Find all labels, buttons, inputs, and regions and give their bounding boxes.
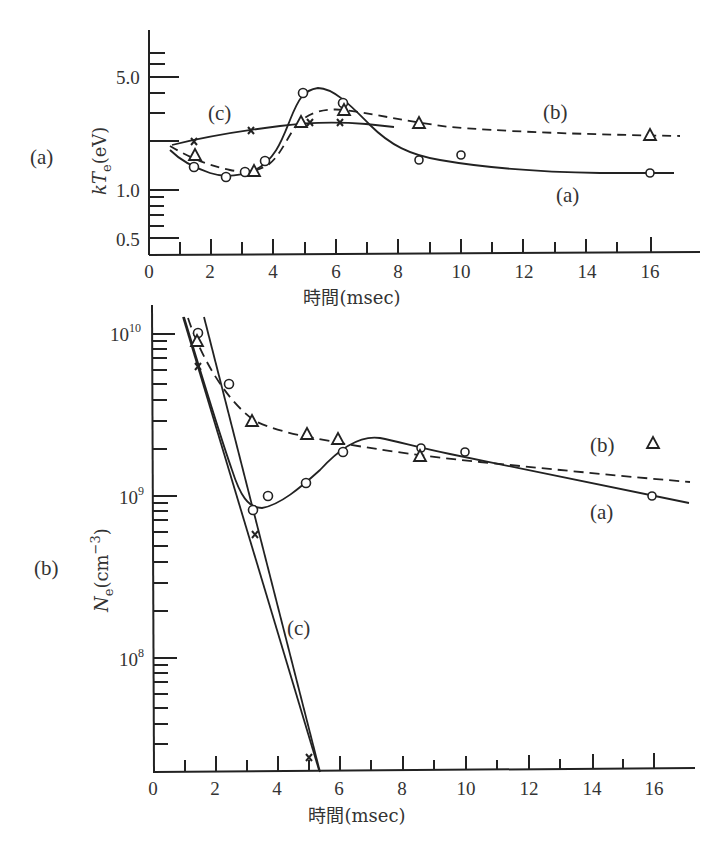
bottom-label-b: (b) (590, 433, 615, 457)
bottom-panel-label: (b) (34, 556, 59, 580)
bottom-y-ticks (152, 334, 177, 744)
bottom-x-axis (154, 768, 695, 772)
top-xtick-10: 10 (452, 261, 471, 282)
bottom-xtick-8: 8 (397, 778, 407, 799)
top-curve-c (172, 123, 394, 145)
top-ytick-1: 1.0 (116, 180, 140, 201)
top-xtick-6: 6 (331, 261, 341, 282)
top-xtick-2: 2 (205, 261, 215, 282)
top-curve-b (170, 110, 680, 172)
bottom-label-a: (a) (590, 500, 613, 524)
top-panel-label: (a) (30, 145, 53, 169)
bottom-ytick-1e9: 109 (119, 484, 144, 508)
figure: (a) 5.0 1.0 0.5 kTe(eV) 0 2 4 6 8 10 12 … (0, 0, 723, 859)
bottom-xtick-12: 12 (520, 778, 539, 799)
top-ylabel: kTe(eV) (89, 127, 114, 195)
top-y-ticks (149, 53, 179, 238)
bottom-steep-line (204, 317, 320, 772)
bottom-curve-b (188, 318, 690, 482)
top-xtick-4: 4 (268, 261, 278, 282)
bottom-xtick-6: 6 (334, 778, 344, 799)
bottom-markers-a (194, 329, 657, 515)
bottom-xtick-16: 16 (645, 778, 664, 799)
bottom-xtick-14: 14 (583, 778, 603, 799)
bottom-chart (152, 305, 695, 773)
top-xtick-0: 0 (144, 261, 154, 282)
bottom-text: (b) 1010 109 108 Ne(cm−3) 0 2 4 6 8 10 1… (34, 321, 664, 826)
bottom-y-axis (152, 305, 154, 773)
bottom-label-c: (c) (287, 616, 310, 640)
top-ytick-5: 5.0 (116, 67, 140, 88)
top-chart (149, 30, 700, 255)
svg-text:kTe(eV): kTe(eV) (89, 127, 114, 195)
bottom-xlabel: 時間(msec) (308, 805, 405, 826)
bottom-xtick-10: 10 (457, 778, 476, 799)
bottom-curve-c (183, 317, 319, 770)
bottom-ytick-1e8: 108 (119, 646, 144, 670)
top-label-c: (c) (208, 101, 231, 125)
top-label-b: (b) (543, 100, 568, 124)
top-xtick-14: 14 (578, 261, 598, 282)
bottom-xtick-2: 2 (210, 778, 220, 799)
top-xtick-16: 16 (641, 261, 660, 282)
top-xtick-8: 8 (393, 261, 403, 282)
bottom-xtick-0: 0 (148, 778, 158, 799)
top-label-a: (a) (556, 183, 579, 207)
top-xlabel: 時間(msec) (303, 287, 400, 308)
bottom-xtick-4: 4 (272, 778, 282, 799)
top-markers-b (189, 104, 656, 176)
bottom-curve-a (184, 317, 689, 508)
top-xtick-12: 12 (515, 261, 534, 282)
bottom-ylabel: Ne(cm−3) (88, 528, 116, 613)
bottom-markers-b (191, 335, 659, 461)
top-ytick-05: 0.5 (116, 229, 140, 250)
svg-text:Ne(cm−3): Ne(cm−3) (88, 528, 116, 613)
bottom-ytick-1e10: 1010 (110, 321, 141, 345)
